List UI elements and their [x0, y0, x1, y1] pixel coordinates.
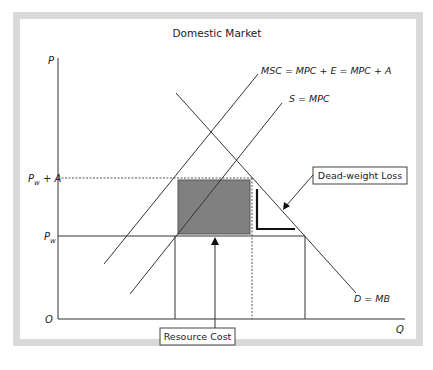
origin-label: O	[45, 314, 53, 325]
resource-cost-label: Resource Cost	[164, 331, 232, 342]
dead-weight-loss-triangle	[257, 189, 295, 229]
market-diagram: Domestic Market P O Q Pw + A Pw MSC = MP…	[0, 0, 433, 370]
dead-weight-loss-arrow	[286, 175, 313, 206]
demand-label: D = MB	[354, 293, 390, 304]
dead-weight-loss-label: Dead-weight Loss	[318, 170, 402, 181]
supply-curve	[130, 103, 282, 294]
y-axis-label: P	[48, 55, 55, 66]
price-label-pw-plus-a: Pw + A	[28, 173, 62, 187]
resource-cost-arrowhead-icon	[211, 237, 219, 245]
price-label-pw: Pw	[44, 231, 56, 245]
diagram-title: Domestic Market	[173, 27, 262, 39]
x-axis-label: Q	[396, 324, 404, 335]
supply-label: S = MPC	[289, 93, 330, 104]
msc-label: MSC = MPC + E = MPC + A	[261, 65, 391, 76]
